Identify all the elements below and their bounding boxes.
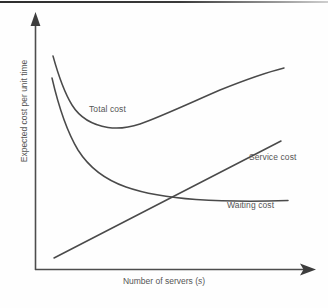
curve-waiting-cost (52, 78, 288, 201)
figure-canvas: Total cost Service cost Waiting cost Num… (0, 0, 328, 308)
y-axis-arrow-icon (31, 12, 41, 26)
curve-total-cost (53, 56, 284, 128)
series-label-total-cost: Total cost (89, 104, 126, 114)
x-axis-title-suffix: ) (202, 276, 205, 286)
y-axis-title: Expected cost per unit time (19, 41, 29, 181)
x-axis-title-prefix: Number of servers ( (123, 276, 198, 286)
series-label-service-cost: Service cost (249, 152, 297, 162)
x-axis-title: Number of servers (s) (0, 276, 328, 286)
series-label-waiting-cost: Waiting cost (227, 200, 274, 210)
